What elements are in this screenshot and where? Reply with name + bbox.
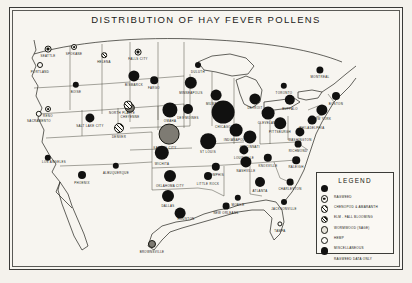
legend-rows: RAGWEEDCHENOPOD & AMARANTHELM - FALL BLO… <box>317 184 393 257</box>
city-symbol <box>255 177 265 187</box>
legend-row: HEMP <box>317 225 393 235</box>
city-label: ST LOUIS <box>200 150 216 154</box>
city-label: LOS ANGELES <box>42 160 66 164</box>
city-symbol <box>332 92 340 100</box>
city-symbol <box>114 123 124 133</box>
city-symbol <box>308 116 317 125</box>
city-symbol <box>45 46 52 53</box>
city-symbol <box>230 124 243 137</box>
city-label: JACKSONVILLE <box>271 207 297 211</box>
city-label: PHOENIX <box>74 181 89 185</box>
city-symbol <box>204 172 212 180</box>
city-symbol <box>223 203 230 210</box>
city-label: SALT LAKE CITY <box>76 124 103 128</box>
city-label: LITTLE ROCK <box>197 182 219 186</box>
city-label: TORONTO <box>276 91 293 95</box>
city-label: DENVER <box>112 135 126 139</box>
city-label: RALEIGH <box>288 165 303 169</box>
city-label: DALLAS <box>161 204 174 208</box>
city-label: BOISE <box>71 90 82 94</box>
city-symbol <box>183 104 193 114</box>
legend-row: RAGWEED DATA ONLY <box>317 246 393 256</box>
city-label: DES MOINES <box>177 116 199 120</box>
legend-row: MISCELLANEOUS <box>317 235 393 245</box>
city-label: SPOKANE <box>66 52 82 56</box>
city-label: DULUTH <box>191 70 205 74</box>
city-symbol <box>101 52 107 58</box>
city-label: BROWNSVILLE <box>140 250 165 254</box>
legend-row: CHENOPOD & AMARANTH <box>317 194 393 204</box>
city-label: SACRAMENTO <box>27 119 51 123</box>
city-label: PORTLAND <box>31 70 50 74</box>
city-label: ATLANTA <box>252 189 267 193</box>
legend-row: RAGWEED <box>317 184 393 194</box>
city-label: FARGO <box>148 86 160 90</box>
city-label: DETROIT <box>247 106 262 110</box>
city-symbol <box>71 44 77 50</box>
city-symbol <box>200 133 216 149</box>
city-symbol <box>287 179 294 186</box>
legend-row: WORMWOOD (SAGE) <box>317 215 393 225</box>
city-symbol <box>281 199 287 205</box>
city-label: HOUSTON <box>178 217 195 221</box>
city-symbol <box>162 190 174 202</box>
city-symbol <box>78 171 86 179</box>
city-label: RICHMOND <box>289 149 308 153</box>
city-symbol <box>37 62 43 68</box>
legend-swatch-icon <box>321 195 329 203</box>
city-label: HELENA <box>97 60 111 64</box>
city-label: CHICAGO <box>215 125 231 129</box>
city-symbol <box>274 117 286 129</box>
city-label: PITTSBURGH <box>269 130 291 134</box>
city-label: NASHVILLE <box>236 169 255 173</box>
legend-swatch-icon <box>321 216 329 224</box>
city-label: SEATTLE <box>40 54 55 58</box>
city-label: BISMARCK <box>125 83 143 87</box>
city-label: ALBUQUERQUE <box>103 171 129 175</box>
city-label: MOBILE <box>231 203 244 207</box>
city-label: NEW ORLEANS <box>213 211 238 215</box>
city-symbol <box>159 124 180 145</box>
city-label: MINNEAPOLIS <box>179 91 203 95</box>
city-symbol <box>292 156 300 164</box>
hay-fever-pollen-map: DISTRIBUTION OF HAY FEVER POLLENS <box>0 0 412 283</box>
legend-label: RAGWEED DATA ONLY <box>334 257 372 261</box>
city-label: OKLAHOMA CITY <box>156 184 184 188</box>
city-label: MONTREAL <box>311 75 330 79</box>
city-label: MILWAUKEE <box>206 102 226 106</box>
city-label: TAMPA <box>274 229 285 233</box>
city-symbol <box>150 76 158 84</box>
legend-title: LEGEND <box>317 177 393 184</box>
legend: LEGEND RAGWEEDCHENOPOD & AMARANTHELM - F… <box>316 172 394 254</box>
legend-swatch-icon <box>321 247 329 255</box>
city-symbol <box>295 141 302 148</box>
city-label: CHARLESTON <box>278 187 301 191</box>
city-symbol <box>124 101 133 110</box>
legend-swatch-icon <box>321 237 329 245</box>
legend-row: ELM - FALL BLOOMING <box>317 204 393 214</box>
city-label: NORTH PLATTE <box>109 111 135 115</box>
city-symbol <box>262 107 275 120</box>
city-label: OMAHA <box>164 119 176 123</box>
city-symbol <box>135 49 142 56</box>
legend-swatch-icon <box>321 205 329 213</box>
city-symbol <box>148 240 156 248</box>
legend-swatch-icon <box>321 226 329 234</box>
city-symbol <box>164 170 176 182</box>
city-label: BUFFALO <box>282 107 298 111</box>
city-symbol <box>211 90 222 101</box>
legend-swatch-icon <box>321 185 329 193</box>
city-label: FALLS CITY <box>128 57 148 61</box>
city-label: BOSTON <box>329 102 343 106</box>
city-symbol <box>195 62 201 68</box>
city-label: CHEYENNE <box>121 115 140 119</box>
city-symbol <box>45 106 51 112</box>
city-label: RENO <box>43 114 53 118</box>
city-label: WICHITA <box>155 162 169 166</box>
city-label: KNOXVILLE <box>258 164 277 168</box>
